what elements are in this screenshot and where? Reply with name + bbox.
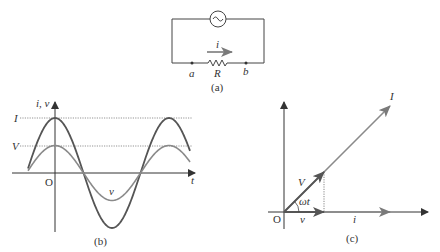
node-a-dot xyxy=(191,62,194,65)
phasor-diagram: I V ωt O v i (c) xyxy=(268,90,428,245)
angle-label: ωt xyxy=(299,195,311,207)
projection-v-label: v xyxy=(300,213,305,225)
phasor-I-label: I xyxy=(389,90,395,102)
node-b-label: b xyxy=(243,65,249,77)
peak-current-label: I xyxy=(13,112,19,124)
y-axis-label: i, v xyxy=(36,97,50,109)
caption-c: (c) xyxy=(346,232,359,245)
projection-i-label: i xyxy=(353,213,356,225)
voltage-curve-label: v xyxy=(109,185,114,197)
waveform-graph: i, v t O I V v (b) xyxy=(12,97,195,248)
peak-voltage-label: V xyxy=(12,140,20,152)
caption-b: (b) xyxy=(94,235,107,248)
t-axis-label: t xyxy=(191,174,195,186)
origin-label-b: O xyxy=(45,176,53,188)
circuit-diagram: i a R b (a) xyxy=(172,11,264,94)
caption-a: (a) xyxy=(211,81,224,94)
ac-resistor-figure: i a R b (a) i, v t O I V v (b) I V ωt O … xyxy=(0,0,440,252)
resistor-label: R xyxy=(213,67,221,79)
current-label: i xyxy=(216,38,219,50)
origin-label-c: O xyxy=(273,213,281,225)
resistor-icon xyxy=(192,60,246,66)
phasor-V-label: V xyxy=(298,176,306,188)
node-a-label: a xyxy=(189,67,195,79)
